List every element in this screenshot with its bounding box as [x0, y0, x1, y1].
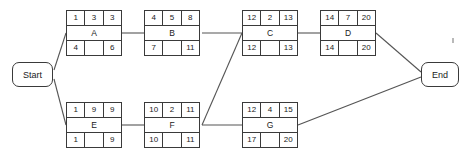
node-e[interactable]: 1 9 9 E 1 9 — [66, 102, 122, 148]
node-c-early-finish: 13 — [280, 11, 297, 25]
node-e-duration: 9 — [85, 103, 103, 117]
node-f-late-start: 10 — [145, 133, 163, 147]
node-b-early-start: 4 — [145, 11, 163, 25]
scan-artifact-speck — [452, 38, 454, 43]
node-g-duration: 4 — [261, 103, 279, 117]
node-d[interactable]: 14 7 20 D 14 20 — [320, 10, 376, 56]
node-f-label: F — [145, 118, 199, 132]
node-a-name-row: A — [67, 26, 121, 41]
node-b-label: B — [145, 26, 199, 40]
node-c-early-start: 12 — [243, 11, 261, 25]
node-e-top-row: 1 9 9 — [67, 103, 121, 118]
edge-f-c — [202, 33, 242, 125]
node-a-late-finish: 6 — [104, 41, 121, 55]
node-e-slack — [85, 133, 103, 147]
node-b-bottom-row: 7 11 — [145, 41, 199, 55]
node-c-bottom-row: 12 13 — [243, 41, 297, 55]
node-b-top-row: 4 5 8 — [145, 11, 199, 26]
node-b-late-start: 7 — [145, 41, 163, 55]
edge-start-a — [54, 33, 66, 70]
node-b-slack — [163, 41, 181, 55]
edge-start-e — [54, 79, 66, 125]
node-d-late-start: 14 — [321, 41, 339, 55]
node-e-late-finish: 9 — [104, 133, 121, 147]
node-f-top-row: 10 2 11 — [145, 103, 199, 118]
node-c[interactable]: 12 2 13 C 12 13 — [242, 10, 298, 56]
node-f-early-finish: 11 — [182, 103, 199, 117]
node-a-bottom-row: 4 6 — [67, 41, 121, 55]
node-e-early-finish: 9 — [104, 103, 121, 117]
node-b[interactable]: 4 5 8 B 7 11 — [144, 10, 200, 56]
node-c-duration: 2 — [261, 11, 279, 25]
node-f-slack — [163, 133, 181, 147]
edge-d-end — [376, 33, 421, 72]
node-d-late-finish: 20 — [358, 41, 375, 55]
node-c-top-row: 12 2 13 — [243, 11, 297, 26]
node-g-label: G — [243, 118, 297, 132]
node-b-duration: 5 — [163, 11, 181, 25]
node-f-early-start: 10 — [145, 103, 163, 117]
node-d-name-row: D — [321, 26, 375, 41]
node-f[interactable]: 10 2 11 F 10 11 — [144, 102, 200, 148]
network-diagram-canvas: Start End 1 3 3 A 4 6 4 5 8 B 7 — [0, 0, 473, 160]
node-c-late-finish: 13 — [280, 41, 297, 55]
node-g-late-finish: 20 — [280, 133, 297, 147]
node-a[interactable]: 1 3 3 A 4 6 — [66, 10, 122, 56]
node-g-early-start: 12 — [243, 103, 261, 117]
start-node-label: Start — [23, 70, 42, 80]
node-g-name-row: G — [243, 118, 297, 133]
node-a-slack — [85, 41, 103, 55]
node-f-late-finish: 11 — [182, 133, 199, 147]
node-g-bottom-row: 17 20 — [243, 133, 297, 147]
node-d-label: D — [321, 26, 375, 40]
node-f-duration: 2 — [163, 103, 181, 117]
start-node[interactable]: Start — [12, 62, 53, 87]
edge-g-end — [298, 77, 421, 125]
node-c-label: C — [243, 26, 297, 40]
node-a-early-finish: 3 — [104, 11, 121, 25]
node-f-bottom-row: 10 11 — [145, 133, 199, 147]
node-c-name-row: C — [243, 26, 297, 41]
end-node-label: End — [432, 70, 448, 80]
node-a-top-row: 1 3 3 — [67, 11, 121, 26]
node-e-label: E — [67, 118, 121, 132]
node-a-late-start: 4 — [67, 41, 85, 55]
end-node[interactable]: End — [421, 62, 459, 87]
node-f-name-row: F — [145, 118, 199, 133]
node-d-early-finish: 20 — [358, 11, 375, 25]
node-d-bottom-row: 14 20 — [321, 41, 375, 55]
node-a-early-start: 1 — [67, 11, 85, 25]
node-a-duration: 3 — [85, 11, 103, 25]
node-g-early-finish: 15 — [280, 103, 297, 117]
node-b-name-row: B — [145, 26, 199, 41]
node-a-label: A — [67, 26, 121, 40]
node-c-late-start: 12 — [243, 41, 261, 55]
node-g-top-row: 12 4 15 — [243, 103, 297, 118]
node-g-slack — [261, 133, 279, 147]
node-g[interactable]: 12 4 15 G 17 20 — [242, 102, 298, 148]
node-d-duration: 7 — [339, 11, 357, 25]
node-d-top-row: 14 7 20 — [321, 11, 375, 26]
node-d-early-start: 14 — [321, 11, 339, 25]
node-b-early-finish: 8 — [182, 11, 199, 25]
node-g-late-start: 17 — [243, 133, 261, 147]
node-e-name-row: E — [67, 118, 121, 133]
node-e-bottom-row: 1 9 — [67, 133, 121, 147]
node-e-late-start: 1 — [67, 133, 85, 147]
node-d-slack — [339, 41, 357, 55]
node-b-late-finish: 11 — [182, 41, 199, 55]
node-e-early-start: 1 — [67, 103, 85, 117]
node-c-slack — [261, 41, 279, 55]
